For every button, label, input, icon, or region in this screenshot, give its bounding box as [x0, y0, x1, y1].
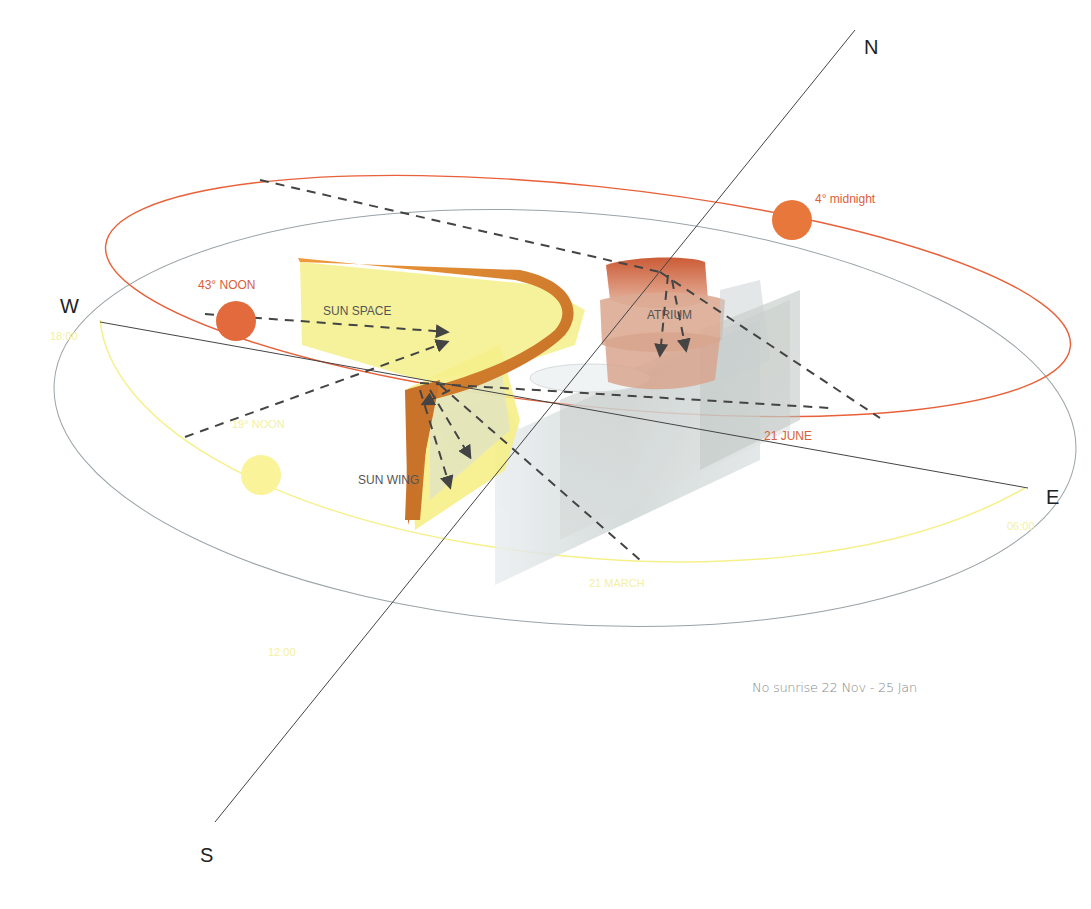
no-sunrise-note: No sunrise 22 Nov - 25 Jan: [752, 681, 917, 694]
time-1200-label: 12:00: [268, 647, 296, 658]
equinox-date-label: 21 MARCH: [589, 578, 645, 589]
summer-noon-label: 43° NOON: [198, 279, 255, 291]
summer-date-label: 21 JUNE: [764, 430, 812, 442]
equinox-noon-sun: [241, 455, 281, 495]
west-label: W: [60, 296, 79, 316]
summer-midnight-sun: [772, 200, 812, 240]
sun-path-diagram: [0, 0, 1091, 909]
south-label: S: [200, 845, 213, 865]
summer-midnight-label: 4° midnight: [815, 193, 875, 205]
equinox-noon-label: 19° NOON: [232, 419, 285, 430]
sun-space-label: SUN SPACE: [323, 305, 391, 317]
atrium-block: [600, 257, 770, 389]
north-label: N: [864, 37, 878, 57]
east-label: E: [1046, 487, 1059, 507]
sun-wing-label: SUN WING: [358, 474, 419, 486]
summer-noon-sun: [216, 301, 256, 341]
time-1800-label: 18:00: [50, 331, 78, 342]
atrium-label: ATRIUM: [647, 309, 692, 321]
time-0600-label: 06:00: [1007, 521, 1035, 532]
